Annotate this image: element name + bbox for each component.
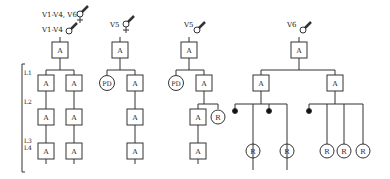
svg-text:A: A [131, 148, 138, 156]
tree-label-v6: V6 [286, 21, 297, 29]
svg-text:A: A [331, 80, 338, 88]
tree-label-v1-v4: V1-V4 [41, 26, 63, 34]
male-symbol-icon [300, 22, 311, 33]
svg-text:R: R [250, 148, 256, 156]
tree-label-v5: V5 [183, 21, 194, 29]
dot-marker [233, 109, 238, 114]
svg-text:R: R [284, 148, 290, 156]
female-male-symbol-icon [123, 16, 134, 33]
pedigree-diagram: L1 L2 L3 L4 V1-V4, V6 V1-V4 A A A A A A … [0, 0, 390, 179]
svg-text:A: A [116, 47, 123, 55]
male-symbol-icon [194, 22, 205, 33]
level-label-l1: L1 [24, 69, 32, 76]
svg-text:A: A [42, 114, 49, 122]
svg-text:A: A [56, 47, 63, 55]
tree-label-v5: V5 [109, 21, 120, 29]
svg-text:A: A [131, 80, 138, 88]
svg-text:A: A [70, 114, 77, 122]
dot-marker [267, 109, 272, 114]
svg-text:PD: PD [102, 80, 112, 88]
tree-v6: V6 A A A R R R R R [233, 21, 371, 170]
svg-text:A: A [70, 148, 77, 156]
svg-text:R: R [324, 148, 330, 156]
male-symbol-icon [66, 23, 77, 34]
svg-text:A: A [257, 80, 264, 88]
svg-text:R: R [360, 148, 366, 156]
level-label-l4: L4 [24, 144, 32, 151]
svg-text:A: A [194, 114, 201, 122]
tree-label-v1-v4-v6: V1-V4, V6 [41, 11, 77, 19]
tree-v5-b: V5 A PD A A R A [169, 21, 226, 164]
svg-text:A: A [194, 148, 201, 156]
level-label-l2: L2 [24, 98, 32, 105]
svg-text:PD: PD [171, 80, 181, 88]
tree-v5-a: V5 A PD A A A [100, 16, 144, 164]
svg-text:A: A [295, 47, 302, 55]
svg-text:A: A [42, 80, 49, 88]
svg-text:R: R [215, 114, 221, 122]
svg-text:A: A [200, 80, 207, 88]
svg-text:A: A [70, 80, 77, 88]
svg-text:A: A [42, 148, 49, 156]
female-male-symbol-icon [77, 6, 88, 23]
tree-v1-v4: V1-V4, V6 V1-V4 A A A A A A A [38, 6, 88, 164]
svg-text:R: R [341, 148, 347, 156]
dot-marker [307, 109, 312, 114]
svg-text:A: A [131, 114, 138, 122]
level-label-l3: L3 [24, 137, 32, 144]
level-scale: L1 L2 L3 [22, 64, 32, 172]
svg-text:A: A [185, 47, 192, 55]
